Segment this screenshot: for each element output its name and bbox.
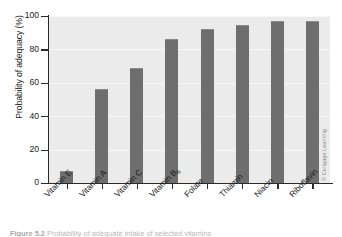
bar-slot [190,16,225,183]
y-tick-label: 80 [13,45,39,54]
bar-slot [119,16,154,183]
x-tick-mark [277,184,278,189]
plot-area [49,16,330,183]
y-tick-mark [41,150,48,151]
y-tick-mark [41,49,48,50]
y-tick-mark [41,83,48,84]
bar-slot [154,16,189,183]
x-tick-mark [67,184,68,189]
x-tick-mark [242,184,243,189]
bar-riboflavin [306,21,319,183]
y-tick-mark [41,116,48,117]
x-tick-mark [137,184,138,189]
bar-series [49,16,330,183]
x-tick-mark [312,184,313,189]
bar-slot [49,16,84,183]
x-tick-mark [207,184,208,189]
bar-slot [225,16,260,183]
y-tick-label: 60 [13,78,39,87]
figure-caption-number: Figure 5.2 [10,229,45,237]
bar-folate [201,29,214,183]
copyright-credit: © Cengage Learning [321,115,327,195]
bar-vitamin-a [95,89,108,183]
bar-vitamin-c [130,68,143,183]
y-tick-label: 20 [13,145,39,154]
y-axis-line [48,15,49,184]
figure-caption: Figure 5.2 Probability of adequate intak… [10,229,335,237]
figure-container: Probability of adequacy (%) 020406080100… [0,0,342,237]
y-tick-mark [41,16,48,17]
y-axis-title: Probability of adequacy (%) [14,0,24,152]
y-tick-mark [41,183,48,184]
y-tick-label: 40 [13,112,39,121]
bar-niacin [271,21,284,183]
y-tick-label: 100 [13,11,39,20]
bar-thiamin [236,25,249,183]
x-tick-mark [102,184,103,189]
bar-slot [260,16,295,183]
x-axis-line [41,183,333,184]
y-tick-label: 0 [13,178,39,187]
x-tick-mark [172,184,173,189]
bar-vitamin-e [60,171,73,183]
figure-caption-text: Probability of adequate intake of select… [47,229,211,237]
bar-slot [84,16,119,183]
bar-vitamin-b6 [165,39,178,183]
